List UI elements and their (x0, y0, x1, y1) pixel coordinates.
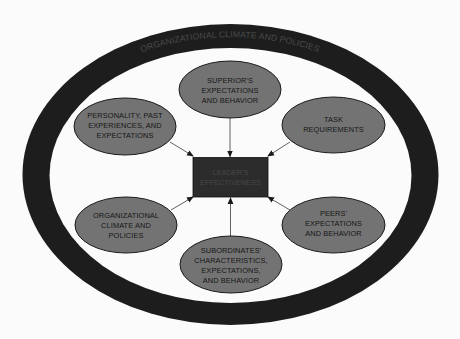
node-subordinates-line-1: SUBORDINATES' (201, 246, 262, 255)
leaders-effectiveness-box: LEADER'S EFFECTIVENESS (193, 158, 268, 198)
node-superior: SUPERIOR'S EXPECTATIONS AND BEHAVIOR (179, 61, 281, 118)
node-subordinates-line-4: AND BEHAVIOR (203, 276, 260, 285)
node-org-climate-line-1: ORGANIZATIONAL (93, 211, 159, 220)
node-personality-line-2: EXPERIENCES, AND (88, 121, 161, 130)
center-label-line-2: EFFECTIVENESS (200, 178, 261, 187)
node-superior-line-3: AND BEHAVIOR (202, 96, 259, 105)
node-org-climate: ORGANIZATIONAL CLIMATE AND POLICIES (75, 197, 177, 253)
node-superior-line-1: SUPERIOR'S (207, 76, 253, 85)
center-label-line-1: LEADER'S (213, 168, 249, 177)
node-superior-line-2: EXPECTATIONS (201, 86, 258, 95)
node-personality: PERSONALITY, PAST EXPERIENCES, AND EXPEC… (74, 98, 176, 155)
node-org-climate-line-2: CLIMATE AND (101, 221, 151, 230)
node-task: TASK REQUIREMENTS (282, 97, 385, 153)
node-task-line-1: TASK (324, 115, 343, 124)
node-subordinates: SUBORDINATES' CHARACTERISTICS, EXPECTATI… (180, 236, 282, 293)
node-peers: PEERS' EXPECTATIONS AND BEHAVIOR (282, 197, 385, 253)
node-peers-line-1: PEERS' (320, 209, 348, 218)
node-peers-line-2: EXPECTATIONS (305, 219, 362, 228)
node-subordinates-line-3: EXPECTATIONS, (201, 266, 260, 275)
node-task-line-2: REQUIREMENTS (303, 125, 364, 134)
node-peers-line-3: AND BEHAVIOR (305, 229, 362, 238)
node-subordinates-line-2: CHARACTERISTICS, (194, 256, 267, 265)
node-org-climate-line-3: POLICIES (109, 231, 144, 240)
node-personality-line-1: PERSONALITY, PAST (87, 111, 163, 120)
leader-effectiveness-diagram: ORGANIZATIONAL CLIMATE AND POLICIES LEAD… (0, 0, 460, 339)
node-personality-line-3: EXPECTATIONS (96, 131, 153, 140)
